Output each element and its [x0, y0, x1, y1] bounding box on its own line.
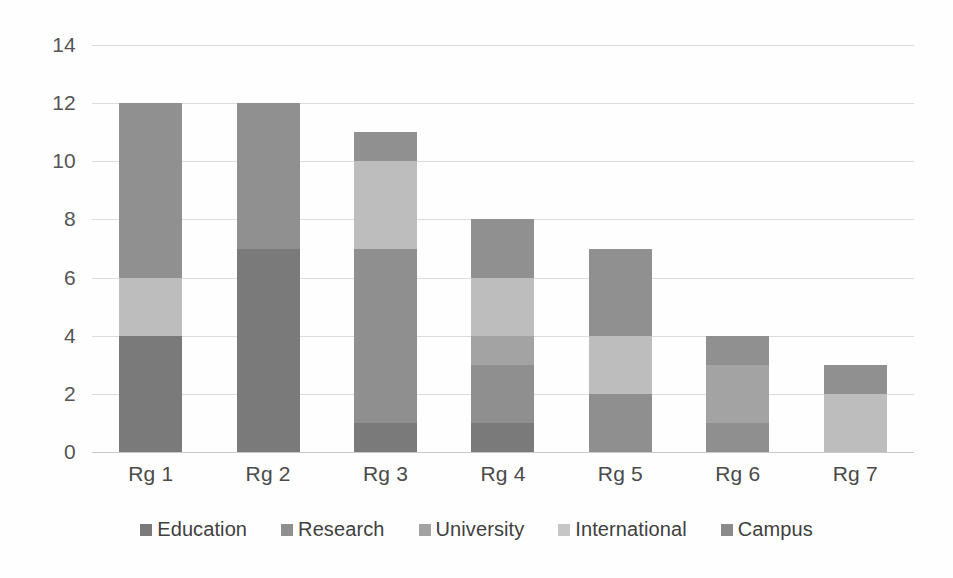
y-axis-tick-label: 6: [64, 266, 76, 290]
bar-group: [679, 45, 796, 452]
bar-segment[interactable]: [589, 249, 652, 336]
bar-segment[interactable]: [354, 132, 417, 161]
legend-item[interactable]: University: [419, 518, 525, 541]
legend-label: University: [436, 518, 525, 541]
y-axis: 14121086420: [0, 0, 92, 578]
x-axis-label: Rg 7: [833, 462, 878, 485]
legend-swatch-icon: [558, 524, 570, 536]
legend-item[interactable]: Education: [140, 518, 247, 541]
bar-segment[interactable]: [706, 423, 769, 452]
bar-series-container: [92, 45, 914, 452]
y-axis-tick-label: 12: [52, 91, 76, 115]
y-axis-tick-label: 10: [52, 149, 76, 173]
bar-segment[interactable]: [471, 423, 534, 452]
legend-item[interactable]: Campus: [721, 518, 813, 541]
x-axis-label: Rg 6: [715, 462, 760, 485]
x-axis-line: [92, 452, 914, 453]
bar-segment[interactable]: [354, 249, 417, 423]
bar-segment[interactable]: [471, 336, 534, 365]
legend-item[interactable]: Research: [281, 518, 384, 541]
y-axis-tick-label: 4: [64, 324, 76, 348]
stacked-bar-chart: 14121086420 Rg 1Rg 2Rg 3Rg 4Rg 5Rg 6Rg 7…: [0, 0, 953, 578]
legend-swatch-icon: [721, 524, 733, 536]
bar-segment[interactable]: [237, 249, 300, 453]
stacked-bar[interactable]: [824, 365, 887, 452]
bar-group: [209, 45, 326, 452]
legend-item[interactable]: International: [558, 518, 686, 541]
x-axis-label-cell: Rg 4: [444, 462, 561, 486]
bar-segment[interactable]: [471, 219, 534, 277]
legend-label: Campus: [738, 518, 813, 541]
x-axis-label: Rg 5: [598, 462, 643, 485]
bar-group: [444, 45, 561, 452]
legend-label: International: [575, 518, 686, 541]
x-axis-label: Rg 1: [128, 462, 173, 485]
bar-segment[interactable]: [354, 161, 417, 248]
legend-swatch-icon: [419, 524, 431, 536]
bar-segment[interactable]: [119, 336, 182, 452]
x-axis-label-cell: Rg 5: [562, 462, 679, 486]
legend-label: Education: [157, 518, 247, 541]
y-axis-tick-label: 14: [52, 33, 76, 57]
stacked-bar[interactable]: [589, 249, 652, 452]
stacked-bar[interactable]: [706, 336, 769, 452]
bar-segment[interactable]: [471, 278, 534, 336]
chart-legend: EducationResearchUniversityInternational…: [0, 518, 953, 541]
y-axis-tick-label: 0: [64, 440, 76, 464]
x-axis-label-cell: Rg 1: [92, 462, 209, 486]
bar-group: [327, 45, 444, 452]
bar-segment[interactable]: [706, 336, 769, 365]
stacked-bar[interactable]: [471, 219, 534, 452]
x-axis-label-cell: Rg 2: [209, 462, 326, 486]
y-axis-tick-label: 8: [64, 207, 76, 231]
x-axis-label: Rg 3: [363, 462, 408, 485]
legend-label: Research: [298, 518, 384, 541]
legend-swatch-icon: [281, 524, 293, 536]
y-axis-tick-label: 2: [64, 382, 76, 406]
plot-area: [92, 45, 914, 452]
bar-segment[interactable]: [237, 103, 300, 248]
bar-segment[interactable]: [824, 365, 887, 394]
bar-segment[interactable]: [354, 423, 417, 452]
bar-segment[interactable]: [706, 365, 769, 423]
x-axis-label-cell: Rg 3: [327, 462, 444, 486]
x-axis-label-cell: Rg 6: [679, 462, 796, 486]
stacked-bar[interactable]: [354, 132, 417, 452]
x-axis-label: Rg 2: [246, 462, 291, 485]
x-axis-label: Rg 4: [480, 462, 525, 485]
bar-segment[interactable]: [119, 103, 182, 277]
x-axis-label-cell: Rg 7: [797, 462, 914, 486]
bar-segment[interactable]: [589, 394, 652, 452]
bar-segment[interactable]: [119, 278, 182, 336]
stacked-bar[interactable]: [237, 103, 300, 452]
bar-group: [562, 45, 679, 452]
legend-swatch-icon: [140, 524, 152, 536]
stacked-bar[interactable]: [119, 103, 182, 452]
bar-group: [92, 45, 209, 452]
x-axis-labels: Rg 1Rg 2Rg 3Rg 4Rg 5Rg 6Rg 7: [92, 462, 914, 486]
bar-segment[interactable]: [589, 336, 652, 394]
bar-segment[interactable]: [471, 365, 534, 423]
bar-segment[interactable]: [824, 394, 887, 452]
bar-group: [797, 45, 914, 452]
